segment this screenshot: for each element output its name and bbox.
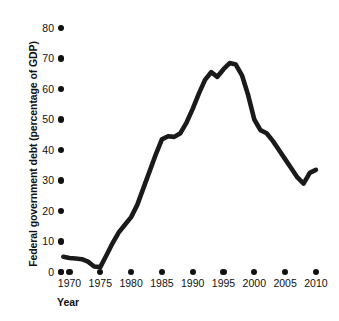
debt-series-line xyxy=(63,63,316,267)
chart-container: Federal government debt (percentage of G… xyxy=(0,0,339,321)
plot-area xyxy=(0,0,339,321)
